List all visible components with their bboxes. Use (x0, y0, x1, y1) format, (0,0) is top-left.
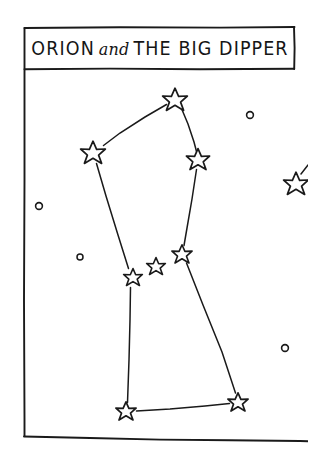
star-foot-right (228, 393, 248, 411)
bright-star-group (81, 88, 308, 420)
star-belt-left (124, 269, 143, 286)
faint-star-left-upper (36, 203, 43, 210)
frame-bottom-border (24, 437, 308, 442)
line-top-to-right-shoulder (182, 109, 197, 152)
line-left-shoulder-to-belt-left (97, 164, 129, 269)
title-box-top-edge (25, 27, 295, 28)
constellation-lines (97, 105, 309, 412)
line-top-to-left-shoulder (104, 105, 167, 146)
title-box (25, 27, 295, 69)
star-foot-left (116, 402, 136, 420)
line-belt-left-to-foot-left (128, 288, 131, 403)
line-foot-left-to-foot-right (137, 404, 230, 412)
line-edge-star-offpage (301, 165, 308, 174)
faint-star-left-lower (77, 254, 83, 260)
star-belt-middle (147, 258, 166, 275)
constellation-canvas (0, 0, 308, 465)
line-belt-right-to-foot-right (187, 263, 236, 393)
star-top (163, 88, 188, 110)
star-belt-right (172, 245, 192, 263)
star-right-shoulder (186, 149, 209, 170)
faint-star-group (36, 112, 289, 352)
faint-star-right-lower (282, 345, 289, 352)
star-edge-clipped (284, 172, 308, 194)
page-frame (24, 28, 308, 441)
line-right-shoulder-to-belt-right (184, 170, 197, 246)
frame-left-border (24, 28, 25, 436)
star-left-shoulder (81, 141, 106, 163)
title-box-bottom-edge (25, 69, 295, 70)
star-chart-page: ORION and THE BIG DIPPER (0, 0, 308, 465)
faint-star-right-upper (247, 112, 254, 119)
title-box-right-edge (294, 27, 295, 69)
